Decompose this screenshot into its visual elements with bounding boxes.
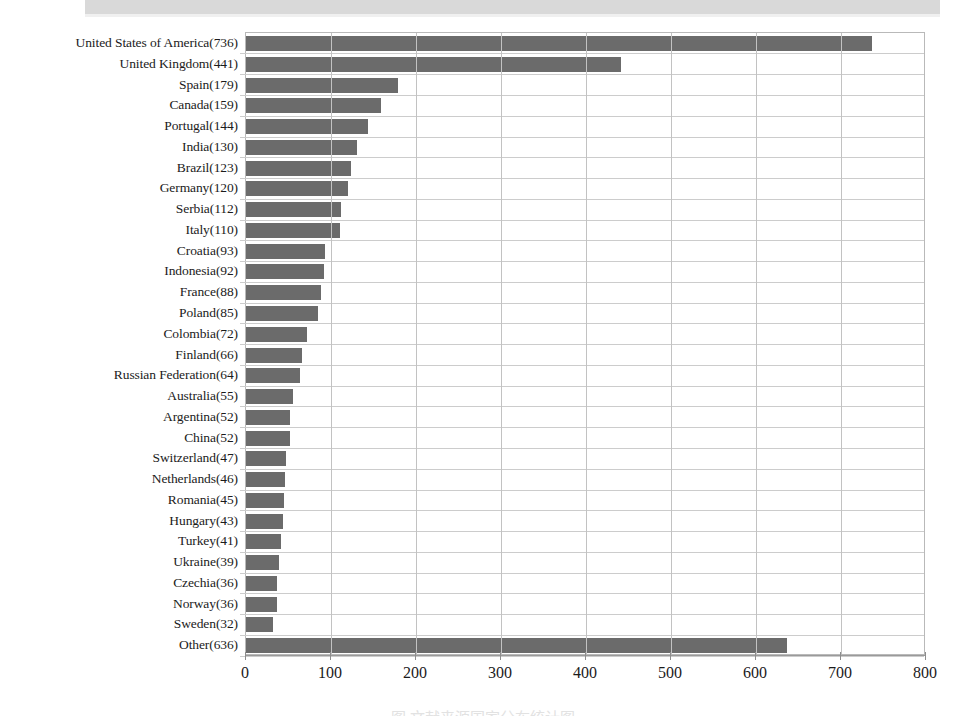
category-label: Indonesia(92) [0, 260, 238, 281]
bar [246, 36, 872, 51]
bar [246, 181, 348, 196]
bar-row [246, 324, 924, 345]
gridline [331, 33, 332, 654]
bar [246, 493, 284, 508]
bar [246, 78, 398, 93]
x-tick-label: 400 [573, 663, 597, 683]
figure-caption-cutoff: 图 文献来源国家分布统计图 [0, 706, 966, 716]
bar-row [246, 95, 924, 116]
category-label: India(130) [0, 136, 238, 157]
bar [246, 223, 340, 238]
bar-row [246, 531, 924, 552]
category-label: Switzerland(47) [0, 447, 238, 468]
bar-row [246, 33, 924, 54]
x-tick-label: 800 [913, 663, 937, 683]
bar [246, 410, 290, 425]
x-tick-mark [670, 652, 671, 660]
category-label: Brazil(123) [0, 157, 238, 178]
category-label: Romania(45) [0, 489, 238, 510]
bar-row [246, 552, 924, 573]
x-tick-mark [755, 652, 756, 660]
bar-row [246, 199, 924, 220]
bar [246, 576, 277, 591]
bar [246, 348, 302, 363]
x-tick-mark [840, 652, 841, 660]
gridline [416, 33, 417, 654]
gridline [671, 33, 672, 654]
bar-row [246, 345, 924, 366]
category-label: Australia(55) [0, 385, 238, 406]
bar [246, 514, 283, 529]
bar-row [246, 386, 924, 407]
bar-row [246, 75, 924, 96]
category-label: Argentina(52) [0, 406, 238, 427]
bar-row [246, 573, 924, 594]
category-label: United States of America(736) [0, 32, 238, 53]
bar [246, 617, 273, 632]
x-tick-mark [330, 652, 331, 660]
gridline [586, 33, 587, 654]
bar [246, 555, 279, 570]
gridline [841, 33, 842, 654]
category-label: Netherlands(46) [0, 468, 238, 489]
bar [246, 638, 787, 653]
bar [246, 119, 368, 134]
bar-rows [246, 33, 924, 654]
category-label: Ukraine(39) [0, 551, 238, 572]
bar [246, 368, 300, 383]
bar [246, 431, 290, 446]
x-tick-label: 0 [241, 663, 249, 683]
category-label: Poland(85) [0, 302, 238, 323]
category-label: Sweden(32) [0, 613, 238, 634]
plot-area [245, 32, 925, 655]
category-label: Germany(120) [0, 177, 238, 198]
bar [246, 389, 293, 404]
horizontal-bar-chart: United States of America(736)United King… [0, 0, 966, 716]
x-tick-label: 500 [658, 663, 682, 683]
x-tick-mark [415, 652, 416, 660]
category-label: Russian Federation(64) [0, 364, 238, 385]
category-label: Hungary(43) [0, 510, 238, 531]
bar [246, 202, 341, 217]
bar-row [246, 428, 924, 449]
bar-row [246, 594, 924, 615]
bar-row [246, 365, 924, 386]
bar [246, 534, 281, 549]
category-label: Norway(36) [0, 593, 238, 614]
category-label: Portugal(144) [0, 115, 238, 136]
scanned-page: United States of America(736)United King… [0, 0, 966, 716]
bar-row [246, 241, 924, 262]
category-label: France(88) [0, 281, 238, 302]
bar [246, 140, 357, 155]
bar-row [246, 220, 924, 241]
bar [246, 451, 286, 466]
bar [246, 472, 285, 487]
bar-row [246, 137, 924, 158]
bar-row [246, 448, 924, 469]
bar [246, 327, 307, 342]
category-label: China(52) [0, 427, 238, 448]
x-tick-label: 300 [488, 663, 512, 683]
bar-row [246, 158, 924, 179]
category-label: Turkey(41) [0, 530, 238, 551]
bar-row [246, 54, 924, 75]
bar-row [246, 490, 924, 511]
category-label: Finland(66) [0, 344, 238, 365]
gridline [756, 33, 757, 654]
category-label: Colombia(72) [0, 323, 238, 344]
x-tick-mark [500, 652, 501, 660]
x-tick-label: 600 [743, 663, 767, 683]
bar [246, 161, 351, 176]
category-label: Other(636) [0, 634, 238, 655]
category-label: Spain(179) [0, 74, 238, 95]
bar-row [246, 469, 924, 490]
bar-row [246, 116, 924, 137]
category-label: Serbia(112) [0, 198, 238, 219]
bar [246, 306, 318, 321]
category-label: Croatia(93) [0, 240, 238, 261]
bar-row [246, 303, 924, 324]
category-axis-labels: United States of America(736)United King… [0, 32, 238, 655]
bar-row [246, 178, 924, 199]
x-tick-mark [585, 652, 586, 660]
category-label: Italy(110) [0, 219, 238, 240]
